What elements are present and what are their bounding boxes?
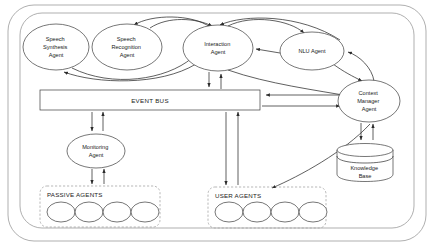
interaction-to-speech-recognition-arc [134,17,210,27]
nlu-agent-label: NLU Agent [298,48,325,54]
passive-agents-label: PASSIVE AGENTS [47,191,103,198]
node-knowledge-base[interactable]: Knowledge Base [337,144,393,182]
monitoring-agent-ellipse[interactable] [67,134,125,168]
user-agent-item[interactable] [215,202,243,222]
nlu-to-interaction-arrow [256,49,280,53]
interaction-agent-ellipse[interactable] [183,25,253,71]
architecture-diagram: Speech Synthesis Agent Speech Recognitio… [0,0,433,251]
node-interaction-agent[interactable]: Interaction Agent [183,25,253,71]
passive-agents-group[interactable]: PASSIVE AGENTS [40,186,160,227]
user-agent-item[interactable] [299,202,327,222]
passive-agent-item[interactable] [75,202,103,222]
eventbus-user-connections [226,112,238,185]
interaction-eventbus-connections [209,72,221,89]
eventbus-context-connections [262,95,344,106]
node-event-bus[interactable]: EVENT BUS [40,90,260,110]
passive-agent-item[interactable] [47,202,75,222]
node-nlu-agent[interactable]: NLU Agent [280,32,344,70]
user-agents-label: USER AGENTS [215,192,261,199]
user-agents-group[interactable]: USER AGENTS [208,187,327,228]
user-agent-item[interactable] [243,202,271,222]
passive-agent-item[interactable] [131,202,159,222]
event-bus-label: EVENT BUS [131,97,169,104]
passive-agent-item[interactable] [103,202,131,222]
node-speech-recognition-agent[interactable]: Speech Recognition Agent [92,24,162,70]
node-monitoring-agent[interactable]: Monitoring Agent [67,134,125,168]
knowledge-base-cylinder-top [337,144,393,157]
monitoring-passive-connections [92,169,104,184]
user-agent-item[interactable] [271,202,299,222]
context-manager-to-nlu-arrow [348,52,374,81]
eventbus-monitoring-connections [92,112,103,131]
diagram-canvas: Speech Synthesis Agent Speech Recognitio… [0,0,433,251]
nlu-to-context-manager-arrow [333,64,362,81]
node-speech-synthesis-agent[interactable]: Speech Synthesis Agent [23,24,89,70]
node-context-manager-agent[interactable]: Context Manager Agent [338,80,400,122]
speech-recognition-to-interaction-arc [150,20,212,29]
